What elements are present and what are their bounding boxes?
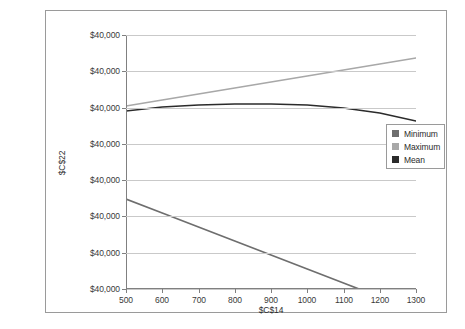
x-axis-tick-label: 600 xyxy=(155,295,169,305)
x-axis-tick-label: 500 xyxy=(119,295,133,305)
legend-item-minimum[interactable]: Minimum xyxy=(390,127,441,140)
x-axis-tick-label: 800 xyxy=(228,295,242,305)
y-axis-tick-label: $40,000 xyxy=(90,211,120,221)
plot-area xyxy=(126,35,416,289)
y-axis-tick xyxy=(122,71,126,72)
y-axis-tick-label: $40,000 xyxy=(90,66,120,76)
y-axis-tick xyxy=(122,216,126,217)
y-gridline xyxy=(126,216,416,217)
x-axis-tick xyxy=(416,289,417,293)
y-axis-tick xyxy=(122,180,126,181)
x-axis-tick-label: 1300 xyxy=(407,295,426,305)
y-axis-tick-label: $40,000 xyxy=(90,103,120,113)
chart-legend[interactable]: MinimumMaximumMean xyxy=(386,124,445,169)
x-axis-tick-label: 1100 xyxy=(335,295,353,305)
legend-item-label: Maximum xyxy=(404,142,440,152)
y-axis-tick-labels: $40,000$40,000$40,000$40,000$40,000$40,0… xyxy=(46,35,120,289)
x-axis-title: $C$14 xyxy=(126,305,416,315)
x-axis-tick-label: 1200 xyxy=(371,295,390,305)
x-axis-tick-label: 900 xyxy=(264,295,278,305)
x-axis-tick-labels: 5006007008009001000110012001300 xyxy=(126,289,416,305)
y-gridline xyxy=(126,144,416,145)
legend-swatch-icon xyxy=(391,129,400,138)
y-gridline xyxy=(126,35,416,36)
y-axis-tick xyxy=(122,35,126,36)
y-axis-tick xyxy=(122,144,126,145)
legend-item-label: Minimum xyxy=(404,129,438,139)
series-line-minimum xyxy=(126,199,416,289)
legend-item-maximum[interactable]: Maximum xyxy=(390,140,441,153)
y-axis-tick xyxy=(122,108,126,109)
y-gridline xyxy=(126,253,416,254)
legend-swatch-icon xyxy=(391,155,400,164)
series-line-maximum xyxy=(126,58,416,106)
y-axis-tick-label: $40,000 xyxy=(90,30,120,40)
y-gridline xyxy=(126,71,416,72)
y-gridline xyxy=(126,180,416,181)
chart-frame[interactable]: $C$22 $40,000$40,000$40,000$40,000$40,00… xyxy=(45,10,447,313)
x-axis-tick-label: 1000 xyxy=(298,295,317,305)
legend-item-label: Mean xyxy=(404,155,425,165)
x-axis-tick-label: 700 xyxy=(192,295,206,305)
series-line-mean xyxy=(126,104,416,121)
legend-item-mean[interactable]: Mean xyxy=(390,153,441,166)
series-layer xyxy=(126,35,416,289)
y-axis-tick-label: $40,000 xyxy=(90,248,120,258)
y-axis-tick-label: $40,000 xyxy=(90,175,120,185)
y-axis-tick xyxy=(122,253,126,254)
x-axis-title-label: $C$14 xyxy=(259,305,284,315)
y-axis-tick-label: $40,000 xyxy=(90,284,120,294)
legend-swatch-icon xyxy=(391,142,400,151)
y-axis-tick-label: $40,000 xyxy=(90,139,120,149)
y-gridline xyxy=(126,108,416,109)
